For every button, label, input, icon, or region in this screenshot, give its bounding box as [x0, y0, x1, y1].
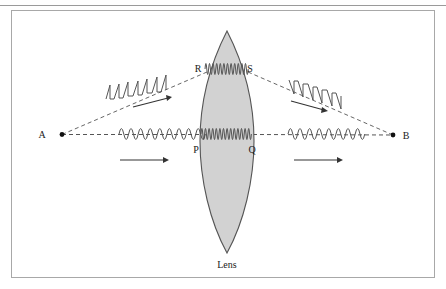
wave-incident-axis-left: [119, 129, 205, 140]
oblique-ray-left: [62, 72, 207, 135]
wave-emergent-oblique-right: [289, 80, 341, 109]
label-point-b: B: [403, 130, 410, 141]
point-marker-a: [60, 132, 65, 137]
label-point-p: P: [193, 144, 199, 155]
arrow-axis-right: [294, 157, 343, 163]
arrow-oblique-left: [133, 95, 172, 107]
figure-canvas: A B P Q R S Lens: [0, 0, 446, 289]
wave-emergent-axis-right: [288, 129, 365, 140]
label-lens: Lens: [217, 259, 237, 270]
label-point-r: R: [195, 63, 202, 74]
arrow-axis-left: [120, 157, 169, 163]
wave-incident-oblique-left: [106, 75, 166, 99]
label-point-a: A: [38, 129, 46, 140]
oblique-ray-right: [248, 72, 393, 135]
label-point-q: Q: [248, 144, 256, 155]
lens-refraction-figure: A B P Q R S Lens: [0, 0, 446, 289]
point-marker-b: [391, 133, 396, 138]
label-point-s: S: [247, 63, 253, 74]
axis-ray-right: [253, 135, 393, 136]
